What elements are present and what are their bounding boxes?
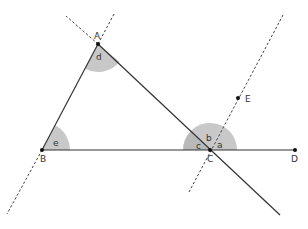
line-ab-extension-top [98, 14, 114, 44]
label-d: D [291, 154, 298, 164]
angle-label-c: c [196, 141, 201, 151]
label-e: E [245, 94, 251, 104]
geometry-diagram: A B C D E a b c d e [0, 0, 308, 229]
line-ce-parallel [189, 15, 283, 192]
label-a: A [94, 31, 101, 41]
segment-ac-extended [98, 44, 280, 215]
point-d [293, 148, 297, 152]
angle-label-e: e [53, 138, 59, 148]
angle-label-b: b [206, 133, 212, 143]
line-ab-extension-bottom [7, 150, 42, 214]
label-b: B [40, 154, 46, 164]
point-c [208, 148, 212, 152]
angle-label-d: d [96, 52, 102, 62]
segment-ab [42, 44, 98, 150]
point-e [236, 96, 240, 100]
point-b [40, 148, 44, 152]
label-c: C [207, 154, 213, 164]
angle-label-a: a [217, 140, 223, 150]
point-a [96, 42, 100, 46]
